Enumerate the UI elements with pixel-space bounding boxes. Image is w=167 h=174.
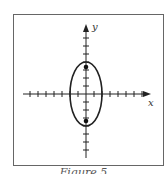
focus-point-top	[84, 65, 89, 70]
focus-point-bottom	[84, 119, 89, 124]
ellipse-figure: y x	[0, 0, 167, 174]
figure-caption: Figure 5	[0, 167, 167, 174]
figure-frame	[14, 15, 164, 166]
y-axis-arrow-icon	[83, 24, 89, 32]
y-axis-label: y	[91, 21, 98, 32]
x-axis-label: x	[148, 97, 154, 108]
